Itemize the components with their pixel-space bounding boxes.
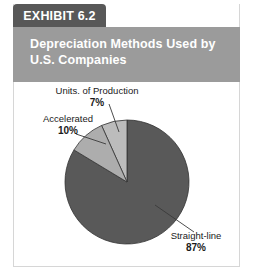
pie-chart-area: Units. of Production 7% Accelerated 10% … <box>14 82 239 266</box>
callout-units-of-production-name: Units. of Production <box>56 85 139 96</box>
callout-units-of-production-value: 7% <box>48 97 146 109</box>
callout-straight-line-value: 87% <box>161 242 231 254</box>
callout-straight-line: Straight-line 87% <box>161 230 231 253</box>
callout-accelerated: Accelerated 10% <box>34 113 102 136</box>
exhibit-title-line-2: U.S. Companies <box>30 53 127 67</box>
exhibit-title-band: Depreciation Methods Used by U.S. Compan… <box>13 27 240 82</box>
exhibit-number-tab: EXHIBIT 6.2 <box>13 4 106 27</box>
callout-accelerated-name: Accelerated <box>43 113 93 124</box>
exhibit-number-label: EXHIBIT 6.2 <box>23 9 95 23</box>
callout-units-of-production: Units. of Production 7% <box>48 85 146 108</box>
callout-accelerated-value: 10% <box>34 125 102 137</box>
callout-straight-line-name: Straight-line <box>171 230 222 241</box>
exhibit-title: Depreciation Methods Used by U.S. Compan… <box>30 36 230 68</box>
exhibit-title-line-1: Depreciation Methods Used by <box>30 37 215 51</box>
